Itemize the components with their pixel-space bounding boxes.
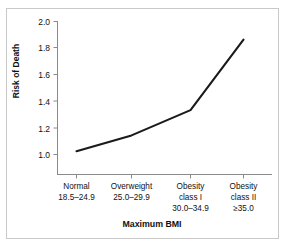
y-tick-label-1.6: 1.6 [24,70,50,80]
y-tick-label-2.0: 2.0 [24,17,50,27]
x-tick-label-normal-line1: Normal [46,181,108,192]
y-tick-label-1.2: 1.2 [24,124,50,134]
x-axis-title: Maximum BMI [57,219,247,229]
x-tick-marks [77,175,244,179]
y-tick-label-1.8: 1.8 [24,43,50,53]
x-tick-label-obesity-class-ii-line3: ≥35.0 [213,203,275,214]
x-tick-label-obesity-class-ii-line2: class II [213,192,275,203]
x-tick-label-overweight-line2: 25.0–29.9 [101,192,163,203]
x-tick-label-normal: Normal 18.5–24.9 [46,181,108,203]
y-tick-label-1.0: 1.0 [24,150,50,160]
x-tick-label-overweight: Overweight 25.0–29.9 [101,181,163,203]
x-tick-label-obesity-class-ii: Obesity class II ≥35.0 [213,181,275,214]
x-tick-label-normal-line2: 18.5–24.9 [46,192,108,203]
risk-of-death-series-line [77,40,244,152]
risk-of-death-line-chart: 1.0 1.2 1.4 1.6 1.8 2.0 Risk of Death No… [0,0,286,246]
x-tick-label-overweight-line1: Overweight [101,181,163,192]
y-tick-marks [54,22,58,155]
y-tick-label-1.4: 1.4 [24,97,50,107]
y-axis-title: Risk of Death [11,36,21,106]
x-tick-label-obesity-class-ii-line1: Obesity [213,181,275,192]
